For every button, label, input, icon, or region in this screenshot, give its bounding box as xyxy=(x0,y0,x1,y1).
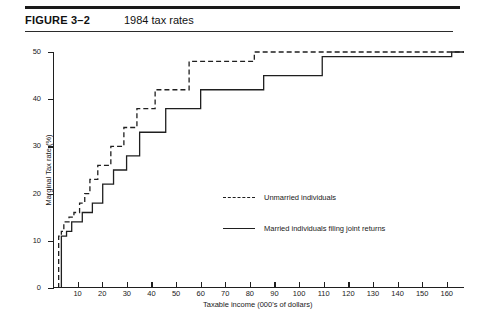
figure-number-label: FIGURE 3–2 xyxy=(25,14,90,26)
legend-item-unmarried: Unmarried individuals xyxy=(223,190,385,204)
legend-swatch-solid-icon xyxy=(223,228,255,229)
legend-label-married: Married individuals filing joint returns xyxy=(264,224,385,233)
x-tick-label-160: 160 xyxy=(441,290,454,298)
x-tick-label-50: 50 xyxy=(172,290,180,298)
y-axis-label: Marginal Tax rate (%) xyxy=(44,134,53,205)
x-tick-label-130: 130 xyxy=(367,290,380,298)
caption-rule xyxy=(25,31,453,32)
x-tick-label-70: 70 xyxy=(221,290,229,298)
figure-title: 1984 tax rates xyxy=(124,14,194,26)
x-tick-label-30: 30 xyxy=(123,290,131,298)
top-rule xyxy=(25,6,460,9)
x-tick-label-90: 90 xyxy=(270,290,278,298)
x-tick-label-120: 120 xyxy=(342,290,355,298)
y-tick-label-50: 50 xyxy=(33,48,41,56)
chart-legend: Unmarried individuals Married individual… xyxy=(223,190,385,235)
y-tick-label-30: 30 xyxy=(33,143,41,151)
legend-swatch-dashed-icon xyxy=(223,197,255,198)
x-tick-label-110: 110 xyxy=(318,290,330,298)
x-tick-label-150: 150 xyxy=(416,290,429,298)
legend-label-unmarried: Unmarried individuals xyxy=(264,193,336,202)
legend-item-married: Married individuals filing joint returns xyxy=(223,221,385,235)
y-tick-label-20: 20 xyxy=(33,190,41,198)
y-tick-label-0: 0 xyxy=(37,284,41,292)
x-tick-label-100: 100 xyxy=(293,290,306,298)
x-tick-label-40: 40 xyxy=(147,290,155,298)
x-tick-label-80: 80 xyxy=(246,290,254,298)
y-tick-0: 0 xyxy=(48,288,54,289)
y-tick-label-10: 10 xyxy=(33,237,41,245)
x-tick-label-20: 20 xyxy=(98,290,106,298)
x-tick-label-10: 10 xyxy=(73,290,81,298)
x-tick-label-140: 140 xyxy=(391,290,404,298)
x-axis-label: Taxable income (000's of dollars) xyxy=(203,300,312,309)
chart-plot-area: 01020304050 1020304050607080901001101201… xyxy=(53,52,468,288)
figure-container: FIGURE 3–2 1984 tax rates 01020304050 10… xyxy=(0,0,478,321)
figure-caption: FIGURE 3–2 1984 tax rates xyxy=(25,11,194,29)
series-line-married xyxy=(61,52,464,288)
y-tick-label-40: 40 xyxy=(33,95,41,103)
x-tick-label-60: 60 xyxy=(196,290,204,298)
chart-series-group xyxy=(53,52,468,288)
